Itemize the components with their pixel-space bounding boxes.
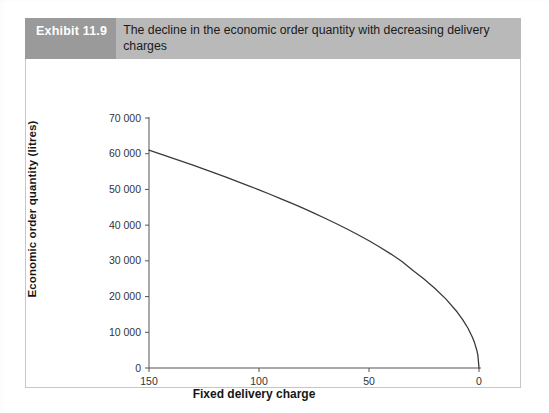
x-axis-title-text: Fixed delivery charge bbox=[193, 387, 316, 401]
svg-text:10 000: 10 000 bbox=[109, 326, 141, 338]
chart-panel: Economic order quantity (litres) 010 000… bbox=[25, 59, 521, 388]
svg-text:150: 150 bbox=[140, 375, 158, 387]
eoq-line-chart: 010 00020 00030 00040 00050 00060 00070 … bbox=[26, 59, 520, 387]
svg-text:70 000: 70 000 bbox=[109, 112, 141, 124]
exhibit-title: The decline in the economic order quanti… bbox=[116, 18, 505, 54]
svg-text:20 000: 20 000 bbox=[109, 290, 141, 302]
svg-text:100: 100 bbox=[250, 375, 268, 387]
svg-text:40 000: 40 000 bbox=[109, 219, 141, 231]
svg-text:60 000: 60 000 bbox=[109, 147, 141, 159]
svg-text:0: 0 bbox=[135, 362, 141, 374]
svg-text:30 000: 30 000 bbox=[109, 254, 141, 266]
exhibit-header: Exhibit 11.9 The decline in the economic… bbox=[25, 18, 521, 59]
x-axis-title: Fixed delivery charge bbox=[26, 387, 520, 401]
exhibit-figure: Exhibit 11.9 The decline in the economic… bbox=[25, 18, 521, 388]
svg-text:0: 0 bbox=[476, 375, 482, 387]
svg-text:50 000: 50 000 bbox=[109, 183, 141, 195]
exhibit-number-badge: Exhibit 11.9 bbox=[25, 18, 116, 59]
svg-text:50: 50 bbox=[363, 375, 375, 387]
